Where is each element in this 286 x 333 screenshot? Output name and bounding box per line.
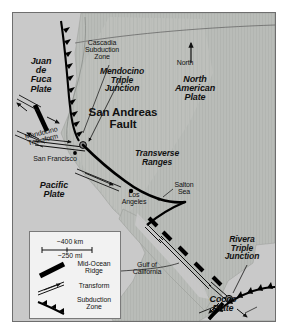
legend-transform-icon: [38, 282, 64, 295]
label-rivera-triple-junction: Rivera Triple Junction: [211, 235, 273, 261]
label-cocos-plate: Cocos Plate: [195, 295, 251, 313]
salton-sea-dot: [157, 197, 160, 200]
label-pacific-plate: Pacific Plate: [23, 181, 85, 199]
map-frame: Juan de Fuca Plate North American Plate …: [12, 12, 276, 322]
map-legend: ~400 km ~250 mi Mid-Ocean Ridge Transfor…: [29, 231, 121, 319]
legend-label-transform: Transform: [68, 282, 120, 289]
label-gulf-of-california: Gulf of California: [125, 261, 169, 275]
label-cascadia-subduction-zone: Cascadia Subduction Zone: [71, 39, 133, 60]
legend-scale-km: ~400 km: [44, 238, 96, 245]
map-figure: Juan de Fuca Plate North American Plate …: [0, 0, 286, 333]
legend-subduction-icon: [38, 300, 64, 314]
label-salton-sea: Salton Sea: [167, 181, 201, 195]
label-los-angeles: Los Angeles: [117, 191, 151, 205]
legend-scale-mi: ~250 mi: [44, 252, 96, 259]
label-san-andreas-fault: San Andreas Fault: [73, 107, 173, 130]
label-transverse-ranges: Transverse Ranges: [121, 149, 193, 166]
label-mendocino-triple-junction: Mendocino Triple Junction: [89, 67, 155, 93]
legend-label-mid-ocean-ridge: Mid-Ocean Ridge: [68, 260, 120, 274]
label-juan-de-fuca-plate: Juan de Fuca Plate: [19, 57, 63, 94]
label-north: North: [165, 59, 205, 66]
legend-label-subduction-zone: Subduction Zone: [68, 296, 120, 310]
label-san-francisco: San Francisco: [19, 155, 91, 162]
label-north-american-plate: North American Plate: [163, 75, 227, 103]
legend-mid-ocean-ridge-icon: [40, 264, 64, 276]
